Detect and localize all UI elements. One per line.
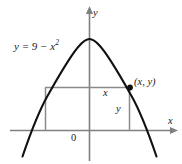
equation-base: y = 9 − x — [14, 40, 55, 52]
point-marker — [127, 85, 133, 91]
equation-exponent: 2 — [55, 38, 59, 47]
origin-label: 0 — [71, 133, 76, 144]
curve-equation-label: y = 9 − x2 — [14, 41, 59, 52]
x-axis-arrowhead — [170, 127, 178, 134]
parabola-figure: y = 9 − x2 (x, y) x y x y 0 — [0, 0, 182, 164]
y-axis-label: y — [93, 8, 98, 19]
rectangle-width-label: x — [103, 88, 108, 99]
x-axis-label: x — [168, 116, 173, 127]
point-coordinate-label: (x, y) — [134, 77, 156, 88]
rectangle-height-label: y — [116, 104, 121, 115]
